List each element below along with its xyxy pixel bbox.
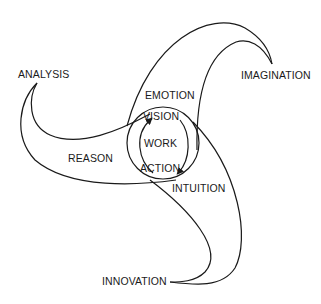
triskelion-diagram	[0, 0, 321, 304]
cycle-arrow-down	[179, 120, 188, 172]
analysis-blade-inner	[31, 83, 150, 139]
innovation-blade-inner	[150, 180, 211, 282]
label-action: ACTION	[140, 163, 180, 174]
label-work: WORK	[144, 138, 177, 149]
label-analysis: ANALYSIS	[18, 69, 69, 80]
label-imagination: IMAGINATION	[241, 70, 311, 81]
label-innovation: INNOVATION	[102, 276, 167, 287]
label-emotion: EMOTION	[145, 90, 195, 101]
label-reason: REASON	[68, 153, 113, 164]
innovation-blade-outer	[170, 122, 241, 284]
imagination-blade-inner	[197, 41, 272, 150]
label-vision: VISION	[143, 111, 179, 122]
label-intuition: INTUITION	[172, 183, 225, 194]
